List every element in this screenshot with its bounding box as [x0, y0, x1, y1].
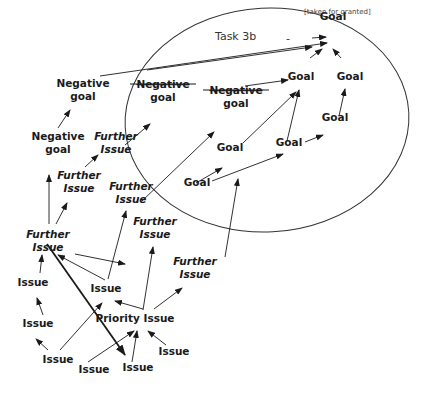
- arrow: [312, 37, 326, 38]
- arrow: [147, 47, 312, 70]
- arrow: [75, 254, 125, 264]
- node-is4: Issue: [42, 353, 73, 365]
- node-is1: Issue: [17, 276, 48, 288]
- node-label: Issue: [100, 143, 131, 155]
- task-title: Task 3b: [214, 30, 256, 43]
- node-g4: Goal: [276, 136, 303, 148]
- node-label: Goal: [288, 70, 315, 82]
- node-label: Goal: [184, 176, 211, 188]
- arrow: [287, 90, 299, 141]
- node-label: Further: [57, 169, 101, 181]
- node-ng_s2: Negativegoal: [203, 84, 269, 109]
- node-label: Issue: [32, 241, 63, 253]
- node-label: Issue: [139, 228, 170, 240]
- node-label: Negative: [56, 77, 109, 89]
- node-ng2: Negativegoal: [31, 130, 84, 155]
- arrow: [132, 331, 137, 362]
- node-label: Issue: [42, 353, 73, 365]
- node-label: Further: [94, 130, 138, 142]
- node-fi1: FurtherIssue: [94, 130, 138, 155]
- arrow: [154, 288, 182, 309]
- node-label: Priority Issue: [96, 312, 175, 324]
- arrow: [37, 298, 43, 315]
- node-label: Goal: [276, 136, 303, 148]
- node-is2: Issue: [90, 282, 121, 294]
- minus-sign: -: [286, 32, 290, 45]
- arrow: [36, 339, 48, 350]
- node-label: Further: [26, 228, 70, 240]
- node-fi2: FurtherIssue: [57, 169, 101, 194]
- node-label: Issue: [179, 268, 210, 280]
- arrow: [108, 211, 126, 279]
- node-label: Issue: [90, 282, 121, 294]
- node-is5: Issue: [158, 345, 189, 357]
- issue-goal-diagram: GoalGoalGoalGoalGoalGoalGoalNegativegoal…: [0, 0, 424, 399]
- node-ng_s1: Negativegoal: [130, 78, 196, 103]
- node-label: Further: [133, 215, 177, 227]
- node-fi4: FurtherIssue: [133, 215, 177, 240]
- nodes-group: GoalGoalGoalGoalGoalGoalGoalNegativegoal…: [17, 10, 363, 375]
- node-ng1: Negativegoal: [56, 77, 109, 102]
- arrow: [60, 303, 102, 350]
- node-label: Issue: [22, 317, 53, 329]
- arrow: [85, 155, 98, 167]
- node-label: Issue: [78, 363, 109, 375]
- node-label: Further: [173, 255, 217, 267]
- arrow: [148, 331, 166, 345]
- node-label: goal: [45, 143, 70, 155]
- node-fi6: FurtherIssue: [173, 255, 217, 280]
- node-label: Negative: [31, 130, 84, 142]
- node-label: Issue: [17, 276, 48, 288]
- node-g5: Goal: [217, 141, 244, 153]
- arrow: [58, 110, 70, 128]
- taken-for-granted-annotation: [taken for granted]: [304, 8, 371, 16]
- node-label: Issue: [122, 361, 153, 373]
- node-g1: Goal: [288, 70, 315, 82]
- node-label: Further: [109, 180, 153, 192]
- diagram-canvas: GoalGoalGoalGoalGoalGoalGoalNegativegoal…: [0, 0, 424, 399]
- arrow: [310, 49, 322, 58]
- node-label: Goal: [337, 70, 364, 82]
- node-label: goal: [223, 97, 248, 109]
- node-label: goal: [150, 91, 175, 103]
- arrow: [212, 154, 283, 181]
- arrow: [333, 49, 341, 58]
- node-g6: Goal: [184, 176, 211, 188]
- arrow: [225, 179, 238, 257]
- node-label: Goal: [322, 111, 349, 123]
- node-pri: Priority Issue: [96, 312, 175, 324]
- arrow: [115, 301, 143, 309]
- node-label: Issue: [63, 182, 94, 194]
- node-fi3: FurtherIssue: [109, 180, 153, 205]
- node-is3: Issue: [22, 317, 53, 329]
- node-fi5: FurtherIssue: [26, 228, 70, 253]
- arrow: [143, 247, 153, 310]
- node-g2: Goal: [337, 70, 364, 82]
- arrow: [40, 255, 42, 273]
- node-label: Issue: [158, 345, 189, 357]
- arrow: [305, 135, 323, 142]
- node-label: Issue: [115, 193, 146, 205]
- node-is7: Issue: [122, 361, 153, 373]
- node-is6: Issue: [78, 363, 109, 375]
- node-g3: Goal: [322, 111, 349, 123]
- node-label: Goal: [217, 141, 244, 153]
- node-label: goal: [70, 90, 95, 102]
- arrow: [56, 203, 67, 224]
